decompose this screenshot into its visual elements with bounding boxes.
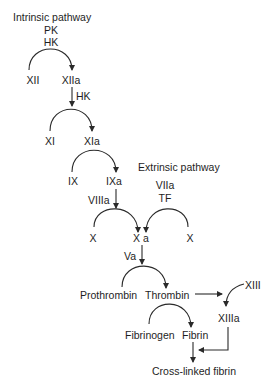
cofactor-viiia: VIIIa (88, 195, 110, 206)
thrombin: Thrombin (145, 290, 189, 301)
factor-xa: X a (133, 233, 149, 244)
cofactor-pk: PK (44, 25, 58, 36)
factor-xii: XII (27, 75, 40, 86)
factor-x-extrinsic: X (186, 233, 193, 244)
arc-x-to-xa-extrinsic (146, 209, 188, 232)
fibrinogen: Fibrinogen (125, 330, 175, 341)
arc-prothrombin-to-thrombin (122, 266, 166, 288)
prothrombin: Prothrombin (80, 290, 137, 301)
factor-xiia: XIIa (62, 75, 81, 86)
extrinsic-pathway-heading: Extrinsic pathway (138, 162, 220, 173)
cross-linked-fibrin: Cross-linked fibrin (152, 366, 236, 377)
factor-xiiia: XIIIa (218, 313, 240, 324)
cofactor-tf: TF (159, 193, 172, 204)
cofactor-hk: HK (44, 37, 59, 48)
factor-ix: IX (68, 176, 78, 187)
arc-fibrinogen-to-fibrin (149, 304, 191, 327)
intrinsic-pathway-heading: Intrinsic pathway (13, 12, 91, 23)
factor-xiii: XIII (245, 280, 261, 291)
cofactor-viia: VIIa (156, 180, 175, 191)
arc-xiii-to-xiiia (226, 284, 244, 306)
arc-xi-to-xia (50, 109, 92, 131)
factor-x-intrinsic: X (89, 233, 96, 244)
cofactor-va: Va (124, 251, 136, 262)
arc-xii-to-xiia (29, 49, 72, 70)
factor-ixa: IXa (106, 176, 122, 187)
cofactor-hk-2: HK (76, 91, 91, 102)
arc-ix-to-ixa (72, 150, 116, 172)
fibrin: Fibrin (182, 330, 208, 341)
factor-xia: XIa (84, 136, 100, 147)
arc-x-to-xa-intrinsic (94, 209, 138, 232)
factor-xi: XI (45, 136, 55, 147)
